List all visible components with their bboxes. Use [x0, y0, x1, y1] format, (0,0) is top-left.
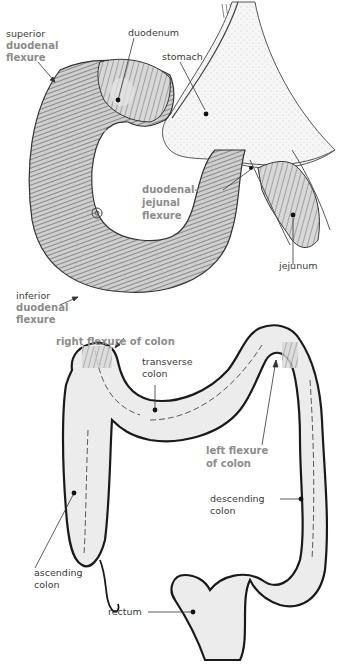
label-inferior-duodenal-flexure: inferior duodenal flexure — [16, 290, 68, 326]
label-left-flexure-of-colon: left flexure of colon — [206, 444, 268, 470]
label-ascending-line1: ascending — [34, 567, 83, 579]
label-dj-line1: duodenal- — [142, 183, 199, 196]
label-ascending-colon: ascending colon — [34, 567, 83, 591]
label-rectum: rectum — [108, 606, 142, 618]
label-transverse-line1: transverse — [142, 356, 193, 368]
label-inferior-line2: flexure — [16, 314, 68, 326]
label-superior-prefix: superior — [6, 28, 58, 40]
label-superior-line1: duodenal — [6, 40, 58, 52]
stomach-shape — [163, 2, 336, 168]
colon-shape — [63, 325, 327, 660]
label-transverse-colon: transverse colon — [142, 356, 193, 380]
label-dj-line3: flexure — [142, 209, 199, 222]
label-transverse-line2: colon — [142, 368, 193, 380]
anatomy-figure: superior duodenal flexure duodenum stoma… — [0, 0, 340, 665]
label-inferior-line1: duodenal — [16, 302, 68, 314]
label-left-flexure-line2: of colon — [206, 457, 268, 470]
label-jejunum: jejunum — [279, 260, 317, 272]
label-dj-line2: jejunal — [142, 196, 199, 209]
label-duodenal-jejunal-flexure: duodenal- jejunal flexure — [142, 183, 199, 222]
label-superior-duodenal-flexure: superior duodenal flexure — [6, 28, 58, 64]
label-descending-colon: descending colon — [210, 493, 265, 517]
label-stomach: stomach — [162, 51, 203, 63]
label-inferior-prefix: inferior — [16, 290, 68, 302]
label-duodenum: duodenum — [128, 27, 179, 39]
label-descending-line2: colon — [210, 505, 265, 517]
label-right-flexure-of-colon: right flexure of colon — [56, 335, 175, 348]
illustration — [0, 0, 340, 665]
label-ascending-line2: colon — [34, 579, 83, 591]
label-superior-line2: flexure — [6, 52, 58, 64]
label-descending-line1: descending — [210, 493, 265, 505]
label-left-flexure-line1: left flexure — [206, 444, 268, 457]
